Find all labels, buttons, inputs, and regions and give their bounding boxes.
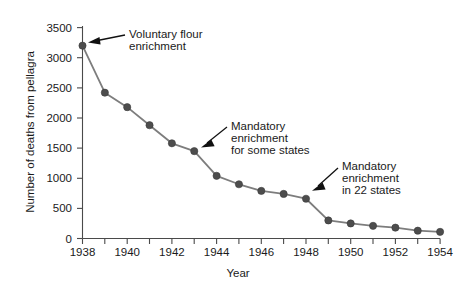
y-tick-label-3500: 3500 <box>46 22 72 34</box>
annotation-3-line-1: Mandatory <box>342 160 397 172</box>
data-point-1946 <box>258 187 265 194</box>
pellagra-deaths-chart: 0 500 1000 1500 2000 2500 3000 3500 <box>0 0 459 294</box>
x-tick-label-1940: 1940 <box>114 246 140 258</box>
data-point-1952 <box>392 224 399 231</box>
annotation-2-line-2: enrichment <box>231 132 289 144</box>
x-tick-label-1938: 1938 <box>70 246 96 258</box>
data-point-1947 <box>280 190 287 197</box>
data-point-1939 <box>101 89 108 96</box>
data-point-1948 <box>302 195 309 202</box>
annotation-1-arrow-head-icon <box>88 37 101 44</box>
y-axis-tick-labels: 0 500 1000 1500 2000 2500 3000 3500 <box>46 22 72 245</box>
annotation-3-line-3: in 22 states <box>342 184 401 196</box>
y-tick-label-500: 500 <box>53 202 72 214</box>
x-axis-title: Year <box>226 267 249 279</box>
y-tick-label-0: 0 <box>66 233 72 245</box>
x-tick-label-1942: 1942 <box>159 246 185 258</box>
annotation-1-line-2: enrichment <box>129 40 187 52</box>
x-axis-tick-labels: 1938 1940 1942 1944 1946 1948 1950 1952 … <box>70 246 454 258</box>
data-point-1940 <box>124 104 131 111</box>
data-point-1944 <box>213 172 220 179</box>
data-point-1943 <box>191 148 198 155</box>
x-tick-label-1952: 1952 <box>383 246 409 258</box>
data-point-1953 <box>414 227 421 234</box>
annotation-voluntary-flour-enrichment: Voluntary flour enrichment <box>88 28 203 52</box>
y-axis-title: Number of deaths from pellagra <box>24 51 36 213</box>
x-tick-label-1954: 1954 <box>427 246 453 258</box>
y-tick-label-2500: 2500 <box>46 82 72 94</box>
data-point-1949 <box>325 217 332 224</box>
x-tick-label-1950: 1950 <box>338 246 364 258</box>
y-axis-ticks <box>77 28 83 239</box>
y-tick-label-3000: 3000 <box>46 52 72 64</box>
annotation-2-line-1: Mandatory <box>231 120 286 132</box>
annotation-3-arrow-head-icon <box>312 183 326 191</box>
x-tick-label-1948: 1948 <box>293 246 319 258</box>
annotation-3-line-2: enrichment <box>342 172 400 184</box>
y-tick-label-1000: 1000 <box>46 172 72 184</box>
annotation-mandatory-enrichment-22-states: Mandatory enrichment in 22 states <box>312 160 401 196</box>
annotation-3-arrow-line <box>318 168 338 186</box>
data-point-1938 <box>79 42 86 49</box>
data-point-1942 <box>168 140 175 147</box>
annotation-2-arrow-head-icon <box>201 140 215 148</box>
data-point-1941 <box>146 122 153 129</box>
data-point-1951 <box>369 222 376 229</box>
data-point-1950 <box>347 220 354 227</box>
annotation-2-line-3: for some states <box>231 144 310 156</box>
chart-canvas: 0 500 1000 1500 2000 2500 3000 3500 <box>0 0 459 294</box>
annotation-mandatory-enrichment-some-states: Mandatory enrichment for some states <box>201 120 310 156</box>
annotation-1-line-1: Voluntary flour <box>129 28 203 40</box>
y-tick-label-2000: 2000 <box>46 112 72 124</box>
data-point-1954 <box>437 228 444 235</box>
x-tick-label-1946: 1946 <box>249 246 275 258</box>
x-axis-ticks <box>83 239 441 245</box>
data-point-1945 <box>235 181 242 188</box>
x-tick-label-1944: 1944 <box>204 246 230 258</box>
y-tick-label-1500: 1500 <box>46 142 72 154</box>
annotation-2-arrow-line <box>207 127 227 143</box>
